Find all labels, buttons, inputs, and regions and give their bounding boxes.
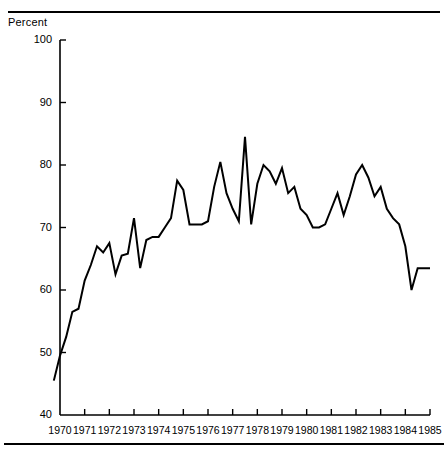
series-group — [54, 137, 430, 381]
x-tick-label: 1985 — [413, 424, 447, 436]
chart-plot-area: 100908070605040 197019711972197319741975… — [0, 0, 448, 462]
y-tick-label: 80 — [26, 158, 52, 170]
y-tick-label: 40 — [26, 408, 52, 420]
y-tick-label: 90 — [26, 96, 52, 108]
chart-svg — [0, 0, 448, 462]
y-tick-label: 100 — [26, 33, 52, 45]
data-line — [54, 137, 430, 381]
y-tick-label: 60 — [26, 283, 52, 295]
axes-group — [60, 40, 430, 415]
y-tick-label: 50 — [26, 346, 52, 358]
y-tick-label: 70 — [26, 221, 52, 233]
